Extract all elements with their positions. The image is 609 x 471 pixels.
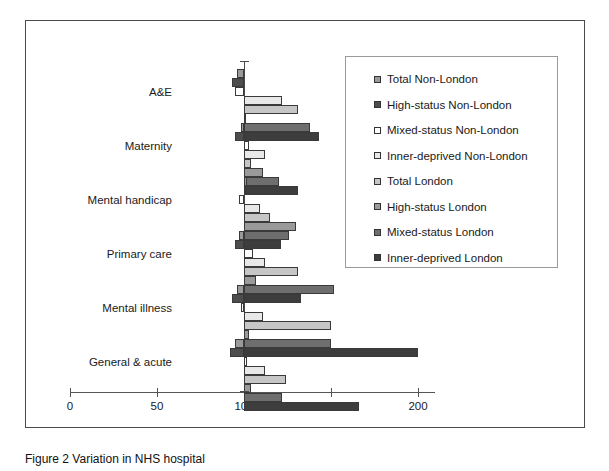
legend-swatch bbox=[374, 229, 381, 236]
chart-bar bbox=[244, 231, 289, 240]
chart-bar bbox=[244, 276, 256, 285]
chart-bar bbox=[244, 150, 265, 159]
chart-bar bbox=[244, 312, 263, 321]
chart-bar bbox=[244, 402, 359, 411]
chart-bar bbox=[244, 357, 247, 366]
x-axis-tick-label: 200 bbox=[398, 400, 438, 412]
chart-bar bbox=[244, 258, 265, 267]
chart-bar bbox=[244, 159, 251, 168]
baseline-cap-top bbox=[240, 61, 249, 62]
legend-label: Total Non-London bbox=[387, 73, 478, 85]
x-axis-tick bbox=[331, 388, 332, 397]
chart-bar bbox=[244, 204, 260, 213]
category-label: Mental handicap bbox=[26, 194, 172, 206]
figure-caption: Figure 2 Variation in NHS hospital bbox=[25, 452, 205, 471]
chart-bar bbox=[244, 249, 253, 258]
legend-swatch bbox=[374, 127, 381, 134]
x-axis-tick-label: 50 bbox=[137, 400, 177, 412]
chart-legend: Total Non-LondonHigh-status Non-LondonMi… bbox=[345, 56, 558, 268]
chart-bar bbox=[237, 69, 244, 78]
legend-item[interactable]: Total London bbox=[374, 175, 453, 187]
legend-label: Mixed-status Non-London bbox=[387, 124, 519, 136]
legend-item[interactable]: Mixed-status Non-London bbox=[374, 124, 519, 136]
chart-bar bbox=[239, 231, 244, 240]
legend-swatch bbox=[374, 76, 381, 83]
chart-bar bbox=[244, 375, 286, 384]
chart-bar bbox=[239, 195, 244, 204]
chart-bar bbox=[235, 132, 244, 141]
category-label: General & acute bbox=[26, 356, 172, 368]
chart-bar bbox=[244, 141, 249, 150]
chart-bar bbox=[244, 240, 281, 249]
legend-item[interactable]: High-status London bbox=[374, 201, 487, 213]
chart-bar bbox=[244, 348, 418, 357]
x-axis-tick bbox=[70, 388, 71, 397]
chart-plot-area: 050100150200 A&EMaternityMental handicap… bbox=[26, 21, 586, 429]
chart-bar bbox=[241, 123, 244, 132]
legend-swatch bbox=[374, 254, 381, 261]
chart-bar bbox=[244, 96, 282, 105]
chart-bar bbox=[244, 213, 270, 222]
legend-item[interactable]: High-status Non-London bbox=[374, 99, 512, 111]
chart-bar bbox=[237, 285, 244, 294]
chart-bar bbox=[244, 321, 331, 330]
legend-label: Inner-deprived Non-London bbox=[387, 150, 528, 162]
chart-bar bbox=[230, 348, 244, 357]
category-label: Maternity bbox=[26, 140, 172, 152]
baseline-cap-bottom bbox=[240, 391, 249, 392]
legend-swatch bbox=[374, 101, 381, 108]
legend-label: Total London bbox=[387, 175, 453, 187]
legend-label: High-status Non-London bbox=[387, 99, 512, 111]
chart-bar bbox=[244, 393, 282, 402]
legend-swatch bbox=[374, 203, 381, 210]
x-axis-tick bbox=[157, 388, 158, 397]
chart-bar bbox=[244, 177, 279, 186]
chart-bar bbox=[235, 240, 244, 249]
chart-bar bbox=[244, 132, 319, 141]
category-label: Primary care bbox=[26, 248, 172, 260]
chart-bar bbox=[244, 222, 296, 231]
chart-bar bbox=[235, 87, 244, 96]
category-label: A&E bbox=[26, 86, 172, 98]
chart-bar bbox=[244, 123, 310, 132]
chart-bar bbox=[244, 294, 301, 303]
chart-bar bbox=[244, 114, 246, 123]
chart-bar bbox=[241, 303, 244, 312]
x-axis-tick-label: 0 bbox=[50, 400, 90, 412]
legend-swatch bbox=[374, 178, 381, 185]
legend-label: High-status London bbox=[387, 201, 487, 213]
chart-bar bbox=[244, 186, 298, 195]
chart-bar bbox=[232, 294, 244, 303]
chart-bar bbox=[244, 168, 263, 177]
legend-item[interactable]: Total Non-London bbox=[374, 73, 478, 85]
legend-item[interactable]: Mixed-status London bbox=[374, 226, 494, 238]
legend-label: Mixed-status London bbox=[387, 226, 494, 238]
chart-bar bbox=[244, 285, 334, 294]
legend-label: Inner-deprived London bbox=[387, 252, 503, 264]
chart-bar bbox=[244, 339, 331, 348]
chart-bar bbox=[232, 78, 244, 87]
legend-swatch bbox=[374, 152, 381, 159]
category-label: Mental illness bbox=[26, 302, 172, 314]
legend-item[interactable]: Inner-deprived Non-London bbox=[374, 150, 528, 162]
chart-bar bbox=[244, 186, 246, 195]
chart-bar bbox=[244, 177, 247, 186]
chart-bar bbox=[244, 330, 249, 339]
x-axis-tick bbox=[418, 388, 419, 397]
legend-item[interactable]: Inner-deprived London bbox=[374, 252, 503, 264]
chart-bar bbox=[244, 267, 298, 276]
chart-bar bbox=[244, 105, 298, 114]
chart-bar bbox=[235, 339, 244, 348]
chart-bar bbox=[244, 366, 265, 375]
figure-frame: 050100150200 A&EMaternityMental handicap… bbox=[25, 20, 585, 428]
